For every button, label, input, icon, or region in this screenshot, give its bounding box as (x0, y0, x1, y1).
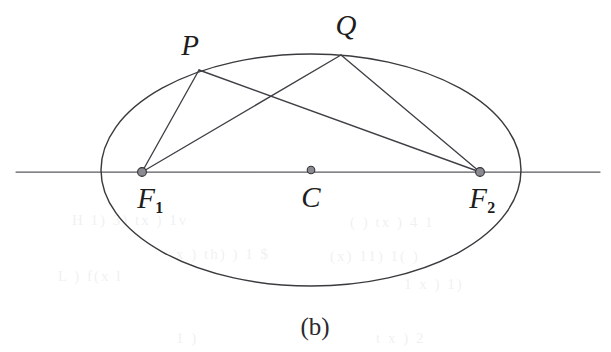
label-p: P (181, 31, 199, 60)
point-marker-c (307, 166, 315, 174)
segment-p-f1 (142, 70, 199, 172)
figure-caption: (b) (300, 313, 329, 341)
label-f2-subscript: 2 (487, 199, 495, 216)
label-f1-subscript: 1 (155, 199, 163, 216)
label-f2: F2 (469, 184, 495, 213)
label-f1-text: F (137, 182, 155, 214)
label-q: Q (336, 11, 357, 40)
ellipse-diagram-canvas (0, 0, 611, 352)
point-marker-f1 (138, 168, 147, 177)
segment-q-f2 (341, 55, 480, 172)
focal-radii-group (142, 55, 480, 172)
segment-q-f1 (142, 55, 341, 172)
label-p-text: P (181, 29, 199, 61)
label-q-text: Q (336, 9, 357, 41)
label-c: C (301, 183, 320, 212)
point-marker-f2 (476, 168, 485, 177)
label-f2-text: F (469, 182, 487, 214)
segment-p-f2 (199, 70, 480, 172)
ellipse-figure: H 1) 3) tx ) 1vx ) th) ) 1 $L ) f(x l( )… (0, 0, 611, 352)
label-f1: F1 (137, 184, 163, 213)
marked-points-group (138, 166, 485, 176)
label-c-text: C (301, 181, 320, 213)
